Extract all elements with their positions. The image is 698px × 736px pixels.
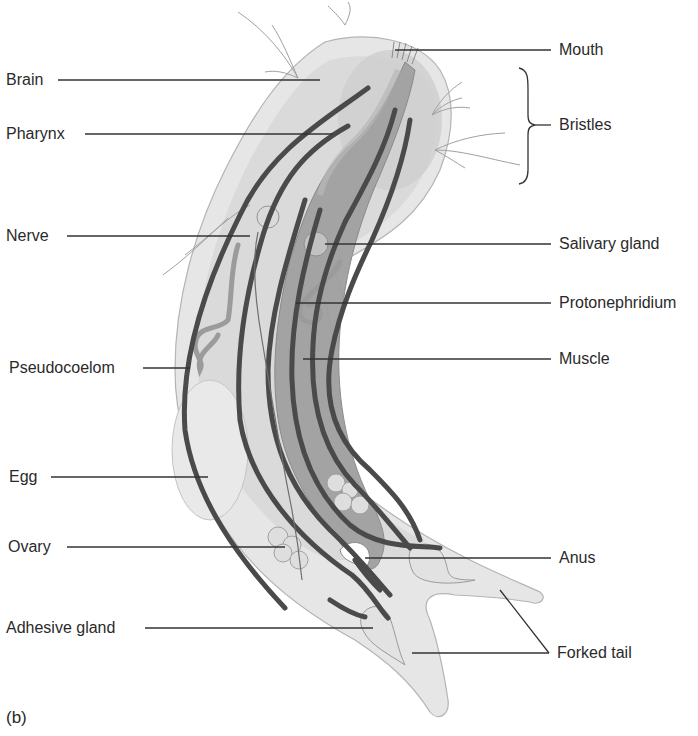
label-forked-tail: Forked tail bbox=[557, 644, 632, 662]
label-salivary-gland: Salivary gland bbox=[559, 235, 660, 253]
panel-letter: (b) bbox=[6, 708, 27, 728]
label-protonephridium: Protonephridium bbox=[559, 294, 676, 312]
label-pharynx: Pharynx bbox=[6, 125, 65, 143]
label-ovary: Ovary bbox=[8, 538, 51, 556]
label-egg: Egg bbox=[9, 468, 37, 486]
label-anus: Anus bbox=[559, 549, 595, 567]
label-pseudocoelom: Pseudocoelom bbox=[9, 359, 115, 377]
bristles-bracket bbox=[519, 68, 535, 184]
label-nerve: Nerve bbox=[6, 227, 49, 245]
label-muscle: Muscle bbox=[559, 350, 610, 368]
label-mouth: Mouth bbox=[559, 41, 603, 59]
label-adhesive-gland: Adhesive gland bbox=[6, 619, 115, 637]
label-brain: Brain bbox=[6, 71, 43, 89]
label-bristles: Bristles bbox=[559, 116, 611, 134]
